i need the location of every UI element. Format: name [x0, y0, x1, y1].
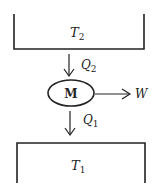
- heat-out-arrow: Q1: [65, 111, 99, 135]
- engine-label: M: [64, 87, 77, 101]
- heat-engine-diagram: T2 Q2 M W Q1 T1: [0, 0, 160, 187]
- heat-in-label: Q2: [81, 58, 97, 74]
- cold-reservoir: T1: [17, 143, 145, 183]
- work-label: W: [135, 87, 149, 101]
- engine: M: [48, 80, 94, 106]
- cold-reservoir-label: T1: [71, 158, 85, 175]
- heat-in-arrow: Q2: [64, 54, 97, 76]
- heat-out-label: Q1: [83, 113, 99, 129]
- hot-reservoir: T2: [14, 14, 144, 49]
- hot-reservoir-label: T2: [70, 25, 84, 42]
- work-arrow: W: [95, 87, 149, 101]
